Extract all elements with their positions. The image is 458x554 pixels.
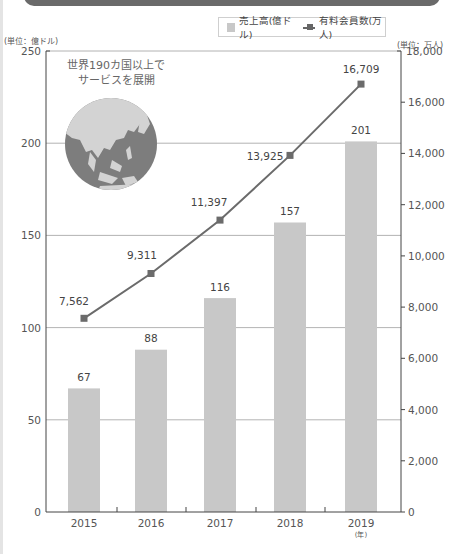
svg-text:150: 150 xyxy=(21,229,41,241)
annotation-line-2: サービスを展開 xyxy=(66,73,166,88)
svg-text:9,311: 9,311 xyxy=(127,249,157,261)
globe-icon xyxy=(62,98,157,196)
svg-text:2016: 2016 xyxy=(138,517,165,529)
svg-text:13,925: 13,925 xyxy=(247,150,284,162)
svg-text:0: 0 xyxy=(34,506,41,518)
svg-text:67: 67 xyxy=(77,371,90,383)
svg-text:2018: 2018 xyxy=(277,517,304,529)
svg-text:2019: 2019 xyxy=(348,517,375,529)
svg-text:116: 116 xyxy=(210,281,230,293)
bar-2018 xyxy=(274,223,306,513)
svg-text:18,000: 18,000 xyxy=(406,45,443,57)
left-axis-labels: 250 200 150 100 50 0 xyxy=(21,45,41,518)
svg-text:11,397: 11,397 xyxy=(191,196,228,208)
svg-text:10,000: 10,000 xyxy=(408,250,445,262)
bar-2015 xyxy=(68,388,100,512)
svg-text:2,000: 2,000 xyxy=(408,455,438,467)
svg-text:12,000: 12,000 xyxy=(408,199,445,211)
svg-text:7,562: 7,562 xyxy=(59,295,89,307)
svg-text:50: 50 xyxy=(28,414,41,426)
svg-text:201: 201 xyxy=(351,124,371,136)
svg-text:2015: 2015 xyxy=(71,517,98,529)
svg-text:157: 157 xyxy=(280,205,300,217)
svg-text:250: 250 xyxy=(21,45,41,57)
x-axis-unit: (年) xyxy=(355,530,368,539)
annotation-line-1: 世界190カ国以上で xyxy=(66,58,166,73)
bar-2016 xyxy=(135,350,167,512)
x-axis-labels: 2015 2016 2017 2018 2019 (年) xyxy=(71,517,375,539)
svg-text:0: 0 xyxy=(408,506,415,518)
bar-2017 xyxy=(204,298,236,512)
svg-text:200: 200 xyxy=(21,137,41,149)
svg-text:88: 88 xyxy=(144,332,157,344)
svg-text:16,709: 16,709 xyxy=(343,63,380,75)
svg-text:14,000: 14,000 xyxy=(408,147,445,159)
svg-text:6,000: 6,000 xyxy=(408,352,438,364)
svg-text:4,000: 4,000 xyxy=(408,404,438,416)
bar-2019 xyxy=(345,141,377,512)
svg-text:16,000: 16,000 xyxy=(408,96,445,108)
svg-text:8,000: 8,000 xyxy=(408,301,438,313)
svg-text:100: 100 xyxy=(21,322,41,334)
chart-annotation: 世界190カ国以上で サービスを展開 xyxy=(66,58,166,88)
right-axis-labels: 18,000 16,000 14,000 12,000 10,000 8,000… xyxy=(406,45,445,518)
svg-text:2017: 2017 xyxy=(207,517,234,529)
